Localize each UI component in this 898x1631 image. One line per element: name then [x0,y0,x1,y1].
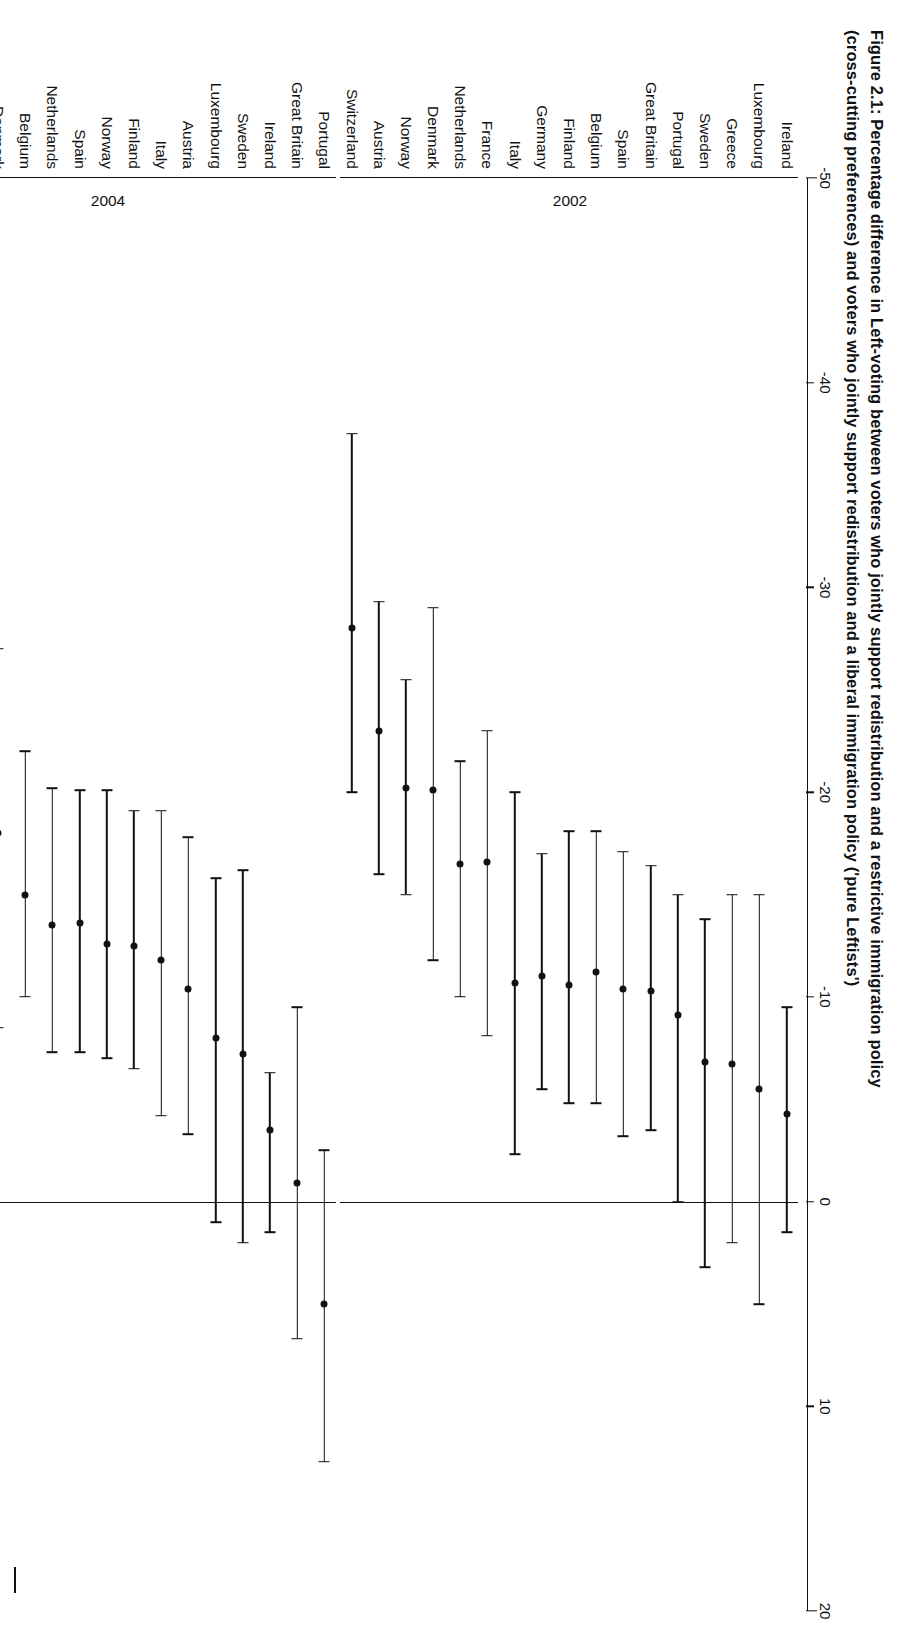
chart-row: Luxembourg [746,26,773,1611]
chart-row: Denmark [0,26,12,1611]
point-estimate-marker [49,922,56,929]
interval-cap-low [700,918,711,920]
confidence-interval-bar [568,831,570,1103]
interval-cap-high [20,996,31,998]
interval-cap-low [237,869,248,871]
country-label: France [479,26,497,178]
interval-cap-high [346,791,357,793]
error-bar-track [447,178,474,1611]
interval-cap-low [292,1006,303,1008]
interval-cap-high [156,1115,167,1117]
country-label: Sweden [696,26,714,178]
country-label: Finland [560,26,578,178]
x-axis-tick [806,587,814,588]
chart-row: Sweden [229,26,256,1611]
error-bar-track [664,178,691,1611]
interval-cap-high [482,1035,493,1037]
error-bar-track [0,178,12,1611]
error-bar-track [555,178,582,1611]
point-estimate-marker [348,625,355,632]
chart-row: Great Britain [637,26,664,1611]
interval-cap-low [319,1150,330,1152]
error-bar-track [66,178,93,1611]
x-axis-tick [806,996,814,997]
confidence-interval-bar [215,878,217,1222]
confidence-interval-bar [378,602,380,874]
interval-cap-low [754,894,765,896]
interval-cap-low [210,877,221,879]
interval-cap-high [700,1266,711,1268]
figure: Figure 2.1: Percentage difference in Lef… [0,0,898,1631]
confidence-interval-bar [460,761,462,996]
interval-cap-high [455,996,466,998]
point-estimate-marker [593,969,600,976]
x-axis-tick-label: 0 [817,1197,834,1205]
country-label: Italy [506,26,524,178]
point-estimate-marker [702,1059,709,1066]
country-label: Greece [723,26,741,178]
year-group: 2004PortugalGreat BritainIrelandSwedenLu… [0,26,338,1611]
chart-row: Austria [175,26,202,1611]
x-axis-tick-label: 20 [817,1603,834,1620]
error-bar-track [773,178,800,1611]
x-axis-tick-label: -30 [817,577,834,599]
country-label: Ireland [778,26,796,178]
error-bar-track [719,178,746,1611]
interval-cap-low [428,607,439,609]
error-bar-track [746,178,773,1611]
interval-cap-low [727,894,738,896]
country-label: Spain [614,26,632,178]
interval-cap-low [645,865,656,867]
plot-area: -50-40-30-20-1001020 2002IrelandLuxembou… [8,26,834,1611]
x-axis-tick [806,177,817,178]
confidence-interval-bar [269,1073,271,1233]
chart-row: Finland [555,26,582,1611]
confidence-interval-bar [595,831,597,1103]
error-bar-track [392,178,419,1611]
chart-row: Ireland [773,26,800,1611]
country-label: Austria [370,26,388,178]
error-bar-track [501,178,528,1611]
confidence-interval-bar [623,852,625,1137]
plot-groups: 2002IrelandLuxembourgGreeceSwedenPortuga… [8,26,800,1611]
confidence-interval-bar [432,608,434,960]
point-estimate-marker [566,981,573,988]
country-label: Ireland [261,26,279,178]
interval-cap-low [0,648,4,650]
chart-row: Norway [93,26,120,1611]
country-label: Italy [152,26,170,178]
confidence-interval-bar [25,751,27,997]
point-estimate-marker [484,858,491,865]
error-bar-track [637,178,664,1611]
error-bar-track [284,178,311,1611]
interval-cap-low [156,810,167,812]
point-estimate-marker [538,973,545,980]
confidence-interval-bar [759,895,761,1304]
chart-row: Denmark [420,26,447,1611]
interval-cap-high [727,1242,738,1244]
x-axis-tick-label: -40 [817,372,834,394]
confidence-interval-bar [704,919,706,1267]
chart-row: Finland [120,26,147,1611]
confidence-interval-bar [296,1007,298,1339]
interval-cap-high [400,894,411,896]
point-estimate-marker [620,985,627,992]
country-label: Luxembourg [207,26,225,178]
x-axis-tick [806,1406,814,1407]
confidence-interval-bar [106,790,108,1058]
interval-cap-low [346,433,357,435]
interval-cap-low [183,836,194,838]
error-bar-track [583,178,610,1611]
error-bar-track [229,178,256,1611]
chart-row: Belgium [583,26,610,1611]
confidence-interval-bar [541,854,543,1089]
point-estimate-marker [647,987,654,994]
interval-cap-low [509,791,520,793]
country-label: Norway [98,26,116,178]
chart-row: Italy [148,26,175,1611]
interval-cap-high [428,959,439,961]
chart-row: Sweden [691,26,718,1611]
confidence-interval-bar [786,1007,788,1232]
interval-cap-low [74,789,85,791]
error-bar-track [691,178,718,1611]
